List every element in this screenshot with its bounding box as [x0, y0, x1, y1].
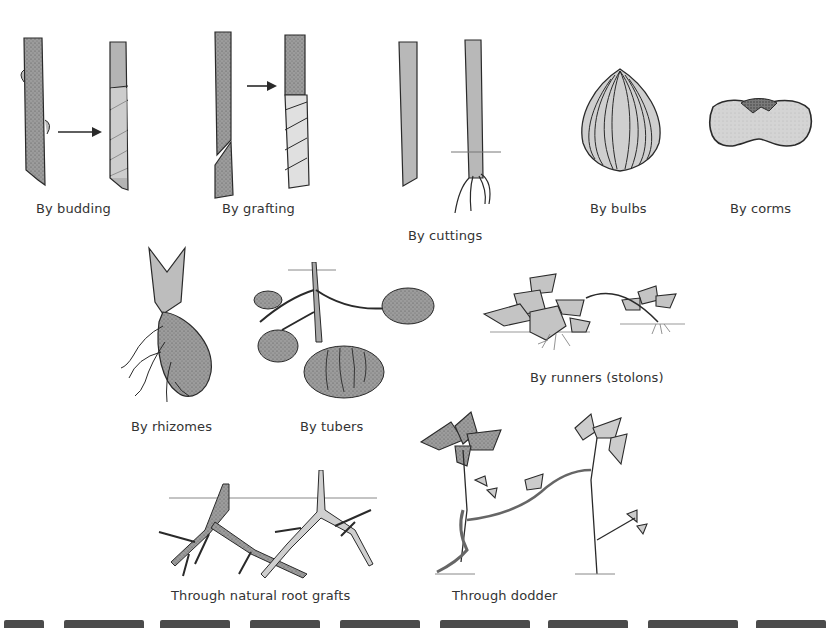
clipped-caption-band — [0, 618, 836, 628]
label-runners: By runners (stolons) — [530, 370, 664, 385]
dodder-illustration — [415, 410, 665, 580]
rhizomes-illustration — [115, 242, 225, 410]
runners-illustration — [480, 270, 695, 360]
grafting-illustration — [205, 30, 325, 200]
cuttings-illustration — [395, 38, 505, 218]
label-cuttings: By cuttings — [408, 228, 482, 243]
label-bulbs: By bulbs — [590, 201, 647, 216]
label-root-grafts: Through natural root grafts — [171, 588, 350, 603]
label-grafting: By grafting — [222, 201, 295, 216]
label-dodder: Through dodder — [452, 588, 558, 603]
tubers-illustration — [248, 262, 448, 402]
budding-illustration — [10, 30, 140, 200]
label-tubers: By tubers — [300, 419, 363, 434]
label-corms: By corms — [730, 201, 791, 216]
corms-illustration — [705, 95, 815, 155]
label-budding: By budding — [36, 201, 111, 216]
label-rhizomes: By rhizomes — [131, 419, 212, 434]
root-grafts-illustration — [155, 470, 385, 580]
bulbs-illustration — [575, 65, 665, 175]
